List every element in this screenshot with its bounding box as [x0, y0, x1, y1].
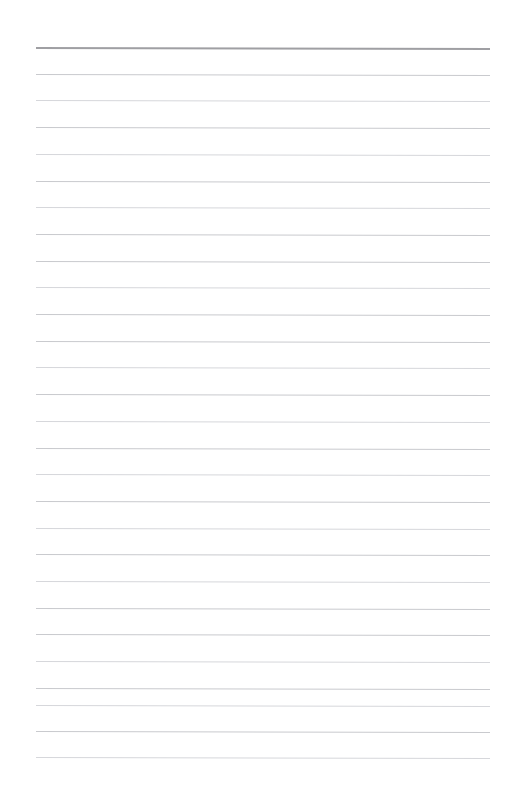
ruled-writing-area[interactable] [0, 0, 518, 794]
lined-paper-page [0, 0, 518, 794]
rule-line [36, 448, 490, 450]
rule-line [36, 661, 490, 663]
rule-line [36, 608, 490, 610]
rule-line [36, 757, 490, 759]
rule-line [36, 394, 490, 396]
rule-line [36, 731, 490, 733]
rule-line [36, 421, 490, 423]
rule-line [36, 341, 490, 343]
rule-line [36, 127, 490, 129]
rule-line [36, 100, 490, 102]
rule-line [36, 181, 490, 183]
rule-line [36, 261, 490, 263]
rule-line [36, 474, 490, 476]
header-rule-line [36, 47, 490, 50]
rule-line [36, 287, 490, 289]
rule-line [36, 581, 490, 583]
rule-line [36, 314, 490, 316]
rule-line [36, 634, 490, 636]
rule-line [36, 154, 490, 156]
rule-line [36, 367, 490, 369]
rule-line [36, 554, 490, 556]
rule-line [36, 688, 490, 690]
rule-line [36, 74, 490, 76]
rule-line [36, 528, 490, 530]
rule-line [36, 207, 490, 209]
rule-line [36, 234, 490, 236]
rule-line [36, 501, 490, 503]
rule-line [36, 705, 490, 707]
